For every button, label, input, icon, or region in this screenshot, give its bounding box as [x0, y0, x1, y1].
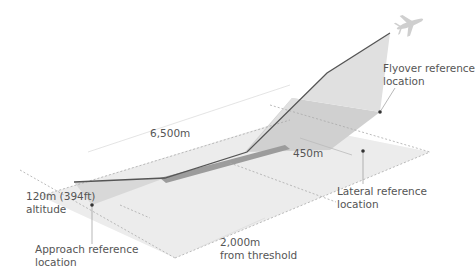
flyover-reference-label: Flyover reference location: [383, 62, 475, 88]
threshold-line1: 2,000m: [220, 236, 297, 249]
flyover-line1: Flyover reference: [383, 62, 475, 75]
airplane-icon: [392, 9, 427, 40]
approach-line1: Approach reference: [35, 243, 138, 256]
altitude-caption: altitude: [26, 203, 95, 216]
lateral-reference-label: Lateral reference location: [337, 185, 427, 211]
lateral-line2: location: [337, 198, 427, 211]
threshold-line2: from threshold: [220, 249, 297, 262]
approach-reference-label: Approach reference location: [35, 243, 138, 269]
threshold-distance-label: 2,000m from threshold: [220, 236, 297, 262]
altitude-label: 120m (394ft) altitude: [26, 190, 95, 216]
flyover-line2: location: [383, 75, 475, 88]
lateral-distance-label: 450m: [293, 147, 323, 160]
altitude-value: 120m (394ft): [26, 190, 95, 203]
length-label: 6,500m: [150, 127, 190, 140]
flyover-reference-point: [378, 110, 382, 114]
lateral-reference-point: [361, 149, 365, 153]
lateral-line1: Lateral reference: [337, 185, 427, 198]
approach-line2: location: [35, 256, 138, 269]
